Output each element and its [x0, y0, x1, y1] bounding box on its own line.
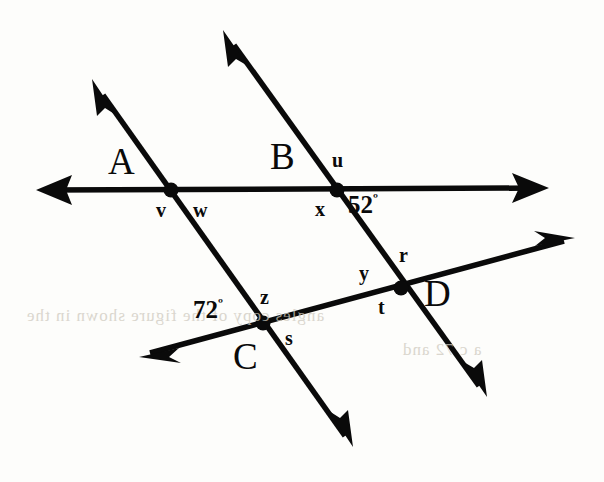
- angle-label-r: r: [399, 245, 408, 265]
- arrowhead-lower-right-AC: [329, 410, 353, 447]
- angle-measure-52: 52º: [348, 192, 378, 217]
- vertex-label-B: B: [270, 138, 295, 175]
- angle-measure-52-value: 52: [348, 191, 373, 218]
- angle-measure-72-value: 72: [193, 296, 218, 323]
- vertex-dot-A: [164, 183, 179, 198]
- angle-label-s: s: [285, 328, 293, 348]
- angle-label-u: u: [332, 150, 343, 170]
- vertex-dot-D: [394, 281, 409, 296]
- geometry-figure: angles copy of the figure shown in the a…: [0, 0, 604, 482]
- arrowhead-upper-BD: [223, 30, 248, 67]
- angle-label-v: v: [156, 200, 166, 220]
- bleed-through-text-2: a c 72 and: [402, 340, 481, 360]
- angle-label-t: t: [378, 297, 385, 317]
- arrowhead-upper-left-AC: [92, 79, 116, 116]
- vertex-label-D: D: [424, 275, 451, 312]
- angle-label-w: w: [193, 200, 207, 220]
- degree-symbol-52: º: [373, 191, 378, 207]
- diagram-canvas: [0, 0, 604, 482]
- degree-symbol-72: º: [218, 296, 223, 312]
- angle-label-z: z: [260, 287, 269, 307]
- angle-label-x: x: [315, 199, 325, 219]
- arrowhead-lower-BD: [462, 360, 487, 397]
- vertex-label-C: C: [233, 338, 258, 375]
- vertex-dot-B: [330, 183, 345, 198]
- vertex-label-A: A: [108, 143, 135, 180]
- line-through-A-and-C: [92, 79, 353, 447]
- angle-label-y: y: [359, 263, 369, 283]
- bleed-through-text-1: angles copy of the figure shown in the: [26, 306, 324, 326]
- angle-measure-72: 72º: [193, 297, 223, 322]
